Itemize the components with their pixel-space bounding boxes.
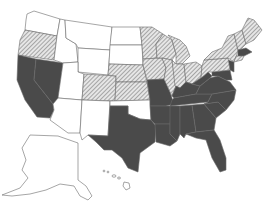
state-ks	[115, 82, 150, 101]
state-me	[242, 18, 262, 44]
state-co	[82, 74, 116, 101]
state-fl	[186, 130, 226, 172]
state-ma-ri	[238, 48, 252, 56]
state-wy	[78, 48, 110, 75]
state-sd	[109, 45, 143, 65]
state-az	[50, 98, 82, 133]
state-ak	[2, 135, 92, 200]
state-hi	[103, 170, 130, 190]
state-ct	[234, 56, 244, 62]
state-ar	[150, 106, 172, 124]
state-nd	[110, 27, 142, 45]
state-ms	[170, 106, 180, 141]
state-nm	[80, 100, 110, 140]
state-ia	[143, 58, 166, 80]
state-ny	[204, 34, 238, 62]
us-choropleth-map	[0, 0, 272, 213]
